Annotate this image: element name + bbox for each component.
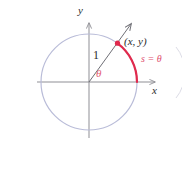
x-axis-label: x — [152, 85, 157, 96]
terminal-point-label: (x, y) — [124, 36, 147, 47]
central-angle-theta-label: θ — [96, 68, 101, 79]
background-edge-arc — [176, 47, 182, 98]
arc-s — [117, 43, 137, 82]
arc-length-label: s = θ — [141, 54, 162, 64]
y-axis-label: y — [78, 5, 83, 16]
radius-length-label: 1 — [93, 49, 99, 61]
terminal-point-dot — [115, 41, 120, 46]
unit-circle-figure: y x 1 θ (x, y) s = θ — [0, 0, 182, 169]
